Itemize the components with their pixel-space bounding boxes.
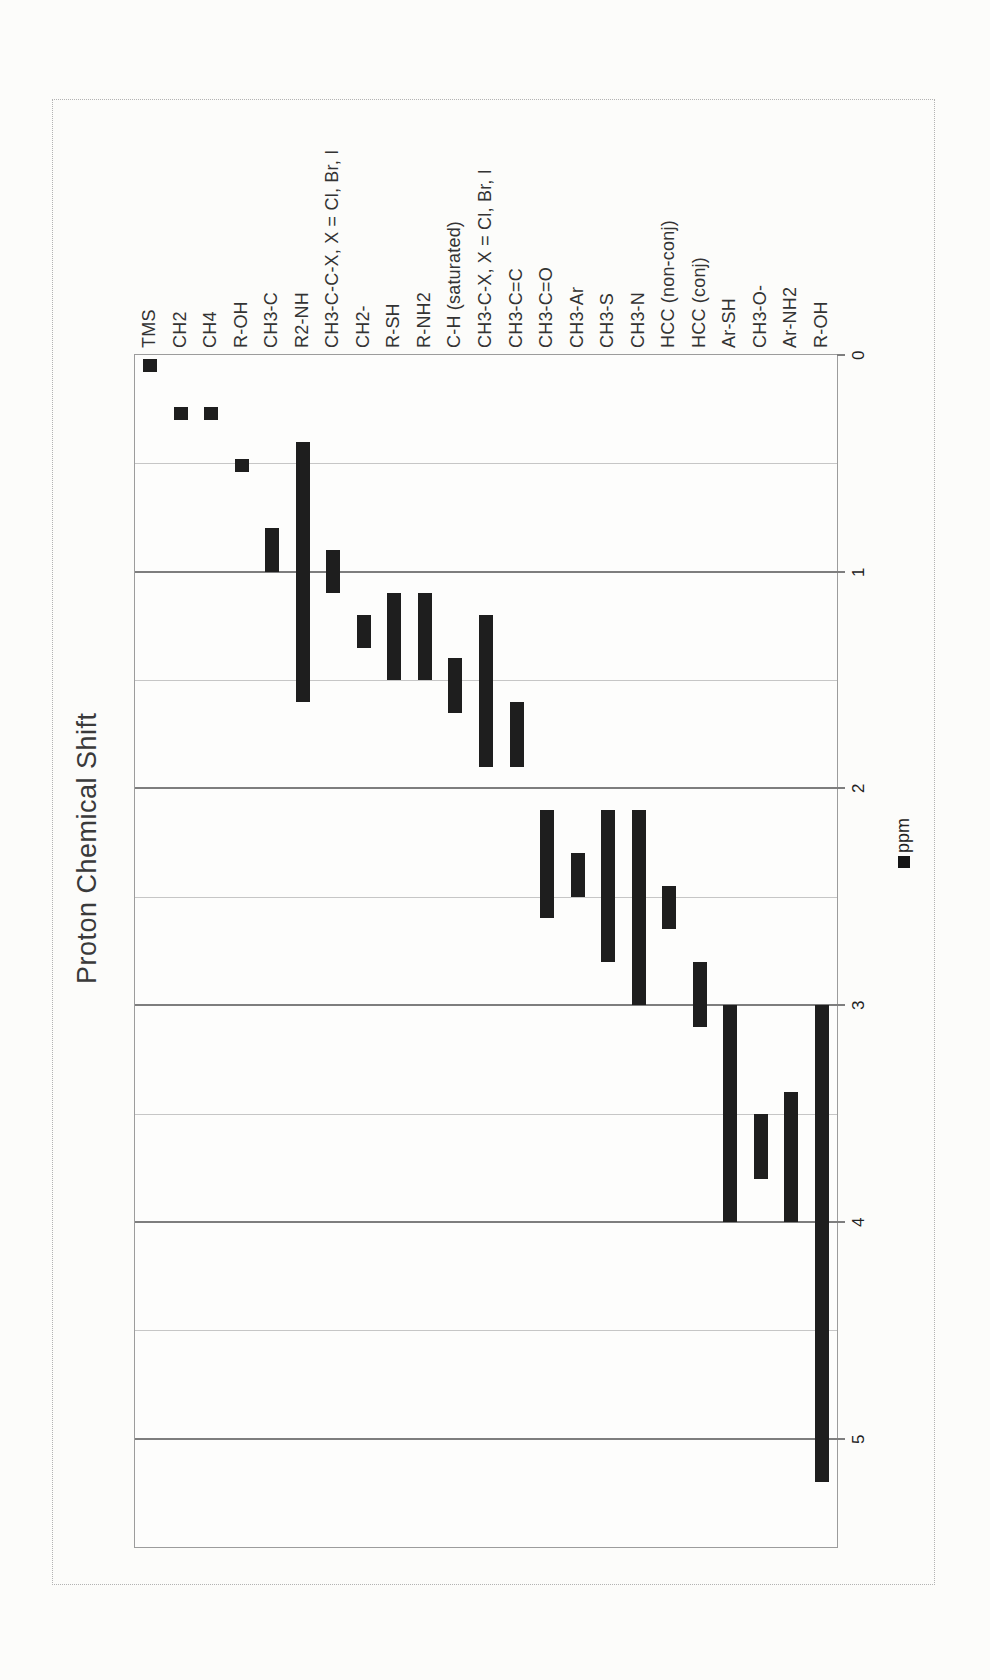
axis-tick xyxy=(837,1221,845,1223)
range-bar xyxy=(326,550,340,593)
gridline-minor xyxy=(135,1330,837,1331)
category-label: CH3-Ar xyxy=(567,287,587,348)
range-bar xyxy=(662,886,676,929)
category-label: TMS xyxy=(139,309,159,348)
axis-tick-label: 3 xyxy=(849,1001,869,1010)
axis-tick-label: 1 xyxy=(849,567,869,576)
range-bar xyxy=(815,1005,829,1482)
axis-tick xyxy=(837,1438,845,1440)
chart-title: Proton Chemical Shift xyxy=(72,712,102,984)
range-bar xyxy=(632,810,646,1005)
category-label: C-H (saturated) xyxy=(444,221,464,348)
range-bar xyxy=(387,593,401,680)
range-bar xyxy=(143,359,157,372)
category-label: CH3-C=O xyxy=(536,267,556,348)
category-label: CH3-C-C-X, X = Cl, Br, I xyxy=(322,150,342,348)
category-label: CH3-C-X, X = Cl, Br, I xyxy=(475,169,495,348)
gridline-major xyxy=(135,787,837,789)
range-bar xyxy=(754,1114,768,1179)
category-label: R-OH xyxy=(231,301,251,348)
range-bar xyxy=(235,459,249,472)
range-bar xyxy=(693,962,707,1027)
category-label: CH3-N xyxy=(628,292,648,348)
plot-area xyxy=(134,354,838,1548)
range-bar xyxy=(723,1005,737,1222)
range-bar xyxy=(296,442,310,702)
axis-tick-label: 0 xyxy=(849,351,869,360)
range-bar xyxy=(601,810,615,962)
gridline-major xyxy=(135,571,837,573)
range-bar xyxy=(571,853,585,896)
category-label: Ar-NH2 xyxy=(780,287,800,348)
legend-label: ppm xyxy=(893,818,913,853)
category-label: CH3-O- xyxy=(750,285,770,348)
range-bar xyxy=(510,702,524,767)
gridline-minor xyxy=(135,897,837,898)
category-label: CH3-S xyxy=(597,293,617,348)
gridline-major xyxy=(135,1438,837,1440)
category-label: CH2 xyxy=(170,311,190,348)
range-bar xyxy=(418,593,432,680)
category-label: CH4 xyxy=(200,311,220,348)
axis-tick-label: 4 xyxy=(849,1217,869,1226)
category-label: CH3-C=C xyxy=(506,268,526,348)
category-label: R-SH xyxy=(383,303,403,348)
axis-tick-label: 5 xyxy=(849,1434,869,1443)
range-bar xyxy=(174,407,188,420)
axis-tick xyxy=(837,787,845,789)
category-label: HCC (non-conj) xyxy=(658,220,678,348)
chart-border: Proton Chemical Shift TMSCH2CH4R-OHCH3-C… xyxy=(52,99,935,1585)
legend-series-swatch xyxy=(898,856,910,868)
axis-tick-label: 2 xyxy=(849,784,869,793)
category-label: R-NH2 xyxy=(414,292,434,348)
category-label: Ar-SH xyxy=(719,298,739,348)
axis-tick xyxy=(837,571,845,573)
category-label: CH2- xyxy=(353,305,373,348)
category-label: HCC (conj) xyxy=(689,257,709,348)
page: Proton Chemical Shift TMSCH2CH4R-OHCH3-C… xyxy=(0,0,990,1680)
range-bar xyxy=(265,528,279,571)
range-bar xyxy=(784,1092,798,1222)
category-label: CH3-C xyxy=(261,292,281,348)
range-bar xyxy=(204,407,218,420)
category-label: R-OH xyxy=(811,301,831,348)
category-label: R2-NH xyxy=(292,292,312,348)
axis-tick xyxy=(837,1004,845,1006)
range-bar xyxy=(479,615,493,767)
range-bar xyxy=(540,810,554,918)
axis-tick xyxy=(837,354,845,356)
range-bar xyxy=(357,615,371,648)
range-bar xyxy=(448,658,462,712)
